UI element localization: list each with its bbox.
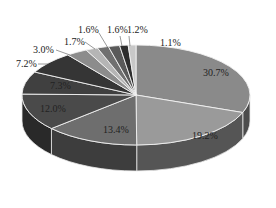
leader-line xyxy=(56,50,70,55)
leader-line xyxy=(129,36,130,46)
slice-label: 1.1% xyxy=(160,37,181,48)
leader-line xyxy=(99,33,108,48)
pie-chart: 30.7%19.2%13.4%12.0%7.3%7.2%3.0%1.7%1.6%… xyxy=(0,0,276,208)
pie-chart-svg: 30.7%19.2%13.4%12.0%7.3%7.2%3.0%1.7%1.6%… xyxy=(0,0,276,208)
slice-label: 7.2% xyxy=(16,58,37,69)
slice-label: 13.4% xyxy=(103,124,129,135)
slice-label: 1.2% xyxy=(127,24,148,35)
leader-line xyxy=(120,36,122,46)
slice-label: 30.7% xyxy=(203,67,229,78)
slice-label: 3.0% xyxy=(33,44,54,55)
slice-label: 1.6% xyxy=(107,24,128,35)
slice-label: 7.3% xyxy=(50,80,71,91)
slice-label: 1.6% xyxy=(78,24,99,35)
slice-label: 19.2% xyxy=(192,130,218,141)
leader-line xyxy=(85,42,95,49)
slice-label: 1.7% xyxy=(64,36,85,47)
slice-label: 12.0% xyxy=(40,103,66,114)
